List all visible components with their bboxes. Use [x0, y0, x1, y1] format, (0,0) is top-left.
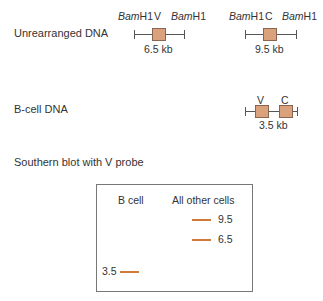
- gene-segment-c: [263, 28, 277, 41]
- fragment-size-label: 3.5 kb: [259, 119, 288, 131]
- lane-header-other-cells: All other cells: [172, 194, 234, 206]
- segment-label-v: V: [154, 10, 161, 22]
- band-size-label: 9.5: [218, 213, 233, 225]
- restriction-site-tick: [245, 107, 246, 116]
- bamh1-site-label-right: BamH1: [171, 10, 206, 22]
- fragment-size-label: 6.5 kb: [144, 43, 173, 55]
- band-9-5: [192, 219, 211, 221]
- row-label-bcell: B-cell DNA: [14, 103, 68, 115]
- restriction-site-tick: [297, 107, 298, 116]
- row-label-unrearranged: Unrearranged DNA: [14, 27, 108, 39]
- band-size-label: 6.5: [218, 233, 233, 245]
- restriction-site-tick: [134, 30, 135, 39]
- bamh1-site-label-right: BamH1: [282, 10, 317, 22]
- gene-segment-c: [279, 105, 293, 118]
- bamh1-site-label-left: BamH1: [118, 10, 153, 22]
- band-size-label: 3.5: [102, 265, 117, 277]
- band-6-5: [192, 239, 211, 241]
- bamh1-site-label-left: BamH1: [229, 10, 264, 22]
- segment-label-c: C: [265, 10, 273, 22]
- gene-segment-v: [255, 105, 269, 118]
- blot-title: Southern blot with V probe: [14, 156, 144, 168]
- restriction-site-tick: [184, 30, 185, 39]
- lane-header-bcell: B cell: [118, 194, 144, 206]
- restriction-site-tick: [245, 30, 246, 39]
- fragment-size-label: 9.5 kb: [255, 43, 284, 55]
- band-3-5: [120, 271, 139, 273]
- gene-segment-v: [152, 28, 166, 41]
- restriction-site-tick: [296, 30, 297, 39]
